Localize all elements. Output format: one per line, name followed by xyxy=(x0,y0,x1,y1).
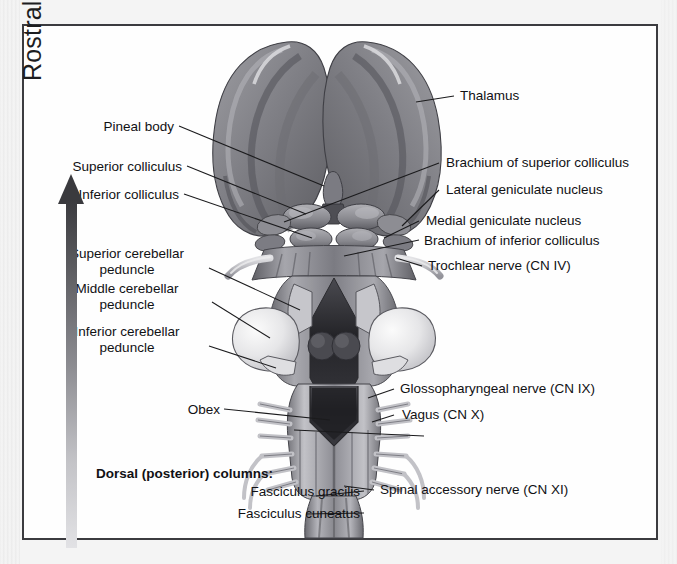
icp-line2: peduncle xyxy=(100,340,155,355)
label-fasciculus-cuneatus: Fasciculus cuneatus xyxy=(134,506,360,521)
label-obex: Obex xyxy=(124,402,220,417)
label-dorsal-columns-header: Dorsal (posterior) columns: xyxy=(96,466,273,481)
screenshot-stage: Pineal body Superior colliculus Inferior… xyxy=(0,0,677,564)
label-medial-geniculate-nucleus: Medial geniculate nucleus xyxy=(426,213,581,228)
label-vagus-nerve: Vagus (CN X) xyxy=(402,407,484,422)
figure-frame: Pineal body Superior colliculus Inferior… xyxy=(22,24,658,540)
page-edge-artifact-right xyxy=(661,0,677,564)
superior-medullary-velum-and-upper-pons xyxy=(252,246,416,281)
label-brachium-inferior-colliculus: Brachium of inferior colliculus xyxy=(424,233,600,248)
label-spinal-accessory-nerve: Spinal accessory nerve (CN XI) xyxy=(380,482,568,497)
label-thalamus: Thalamus xyxy=(460,88,519,103)
mcp-line1: Middle cerebellar xyxy=(76,281,179,296)
page-edge-artifact-left xyxy=(0,0,20,564)
rostral-direction-arrow xyxy=(58,174,84,548)
label-lateral-geniculate-nucleus: Lateral geniculate nucleus xyxy=(446,182,603,197)
label-brachium-superior-colliculus: Brachium of superior colliculus xyxy=(446,155,629,170)
medulla xyxy=(287,384,380,500)
label-superior-colliculus: Superior colliculus xyxy=(34,159,182,174)
icp-line1: Inferior cerebellar xyxy=(74,324,179,339)
scp-line2: peduncle xyxy=(100,262,155,277)
label-glossopharyngeal-nerve: Glossopharyngeal nerve (CN IX) xyxy=(400,381,595,396)
label-pineal-body: Pineal body xyxy=(44,119,174,134)
label-trochlear-nerve: Trochlear nerve (CN IV) xyxy=(428,258,571,273)
rostral-label: Rostral xyxy=(18,0,47,81)
scp-line1: Superior cerebellar xyxy=(70,246,184,261)
arrow-shaft xyxy=(66,200,77,548)
label-inferior-colliculus: Inferior colliculus xyxy=(34,187,179,202)
mcp-line2: peduncle xyxy=(100,297,155,312)
label-fasciculus-gracilis: Fasciculus gracilis xyxy=(134,484,360,499)
